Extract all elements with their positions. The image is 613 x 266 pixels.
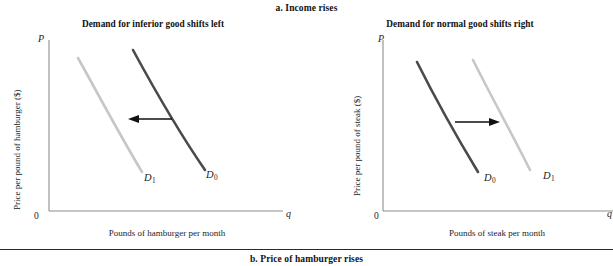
curve-label-text: D (484, 172, 492, 183)
panel-right-curve-d1 (473, 60, 530, 170)
curve-label-text: D (206, 169, 214, 180)
curve-label-subscript: 1 (551, 174, 555, 183)
panel-right-curve-label-d1: D1 (543, 170, 554, 181)
figure-heading-b: b. Price of hamburger rises (0, 254, 613, 264)
panel-right-shift-arrow (455, 118, 500, 126)
panel-left-curve-d0 (133, 50, 205, 170)
panel-inferior-good: Demand for inferior good shifts left Pri… (0, 0, 306, 248)
panel-left-curve-d1 (78, 58, 142, 172)
curve-label-subscript: 1 (152, 176, 156, 185)
figure-container: a. Income rises Demand for inferior good… (0, 0, 613, 266)
curve-label-text: D (543, 170, 551, 181)
panel-left-plot (0, 0, 306, 248)
panel-right-plot (307, 0, 613, 248)
curve-label-text: D (144, 172, 152, 183)
panel-right-curve-label-d0: D0 (484, 172, 495, 183)
curve-label-subscript: 0 (214, 173, 218, 182)
curve-label-subscript: 0 (492, 176, 496, 185)
panel-left-shift-arrow (128, 115, 172, 123)
panel-left-curve-label-d0: D0 (206, 169, 217, 180)
panel-normal-good: Demand for normal good shifts right Pric… (307, 0, 613, 248)
panel-left-curve-label-d1: D1 (144, 172, 155, 183)
panel-right-curve-d0 (417, 62, 478, 172)
section-divider (0, 249, 613, 250)
